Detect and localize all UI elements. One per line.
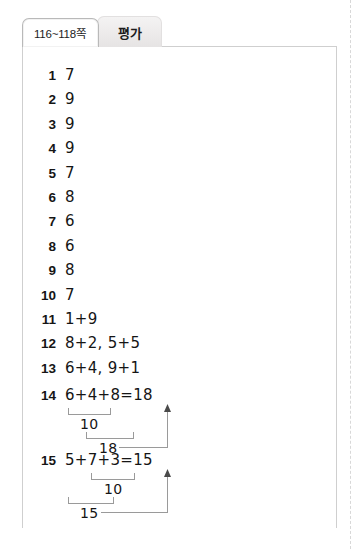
answer-value: 9	[65, 90, 75, 108]
answer-value: 8+2, 5+5	[65, 334, 140, 352]
inner-sum-label: 10	[104, 482, 122, 496]
question-number: 10	[23, 288, 56, 303]
answer-row: 10 7	[23, 286, 336, 310]
regrouping-diagram: 10 18	[65, 404, 255, 456]
question-number: 14	[23, 388, 56, 403]
up-arrow-icon	[163, 404, 172, 413]
result-connector-line	[119, 447, 168, 448]
answer-value: 7	[65, 164, 75, 182]
answer-list: 1 7 2 9 3 9 4 9 5 7 6 8 7 6 8 6	[23, 66, 336, 521]
worked-expression: 6+4+8=18	[65, 387, 255, 404]
inner-bracket	[91, 473, 135, 480]
page-right-dashed-rule	[350, 0, 351, 549]
worked-expression: 5+7+3=15	[65, 452, 255, 469]
answer-row: 6 8	[23, 188, 336, 212]
answer-value: 6	[65, 212, 75, 230]
answer-row: 7 6	[23, 212, 336, 236]
question-number: 11	[23, 312, 56, 327]
answer-key-panel: 1 7 2 9 3 9 4 9 5 7 6 8 7 6 8 6	[22, 46, 337, 528]
result-connector-line	[101, 512, 168, 513]
worked-answer-body: 5+7+3=15 10 15	[65, 452, 255, 521]
question-number: 15	[23, 453, 56, 468]
question-number: 8	[23, 239, 56, 254]
question-number: 4	[23, 141, 56, 156]
answer-row: 4 9	[23, 139, 336, 163]
answer-row: 3 9	[23, 115, 336, 139]
tab-evaluation-label: 평가	[118, 23, 142, 42]
up-arrow-icon	[163, 469, 172, 478]
tab-pages-116-118-label: 116~118쪽	[34, 25, 87, 41]
tab-pages-116-118[interactable]: 116~118쪽	[22, 18, 99, 47]
worked-answer-body: 6+4+8=18 10 18	[65, 387, 255, 456]
question-number: 5	[23, 166, 56, 181]
answer-value: 7	[65, 286, 75, 304]
question-number: 3	[23, 117, 56, 132]
question-number: 9	[23, 263, 56, 278]
answer-value: 8	[65, 188, 75, 206]
answer-row: 13 6+4, 9+1	[23, 359, 336, 383]
answer-row: 11 1+9	[23, 310, 336, 334]
result-arrow-stem	[167, 411, 168, 447]
answer-value: 9	[65, 115, 75, 133]
worked-answer-row: 15 5+7+3=15 10 15	[23, 452, 336, 521]
result-arrow-stem	[167, 476, 168, 512]
answer-row: 12 8+2, 5+5	[23, 334, 336, 358]
answer-row: 8 6	[23, 237, 336, 261]
answer-row: 2 9	[23, 90, 336, 114]
question-number: 2	[23, 92, 56, 107]
outer-bracket	[86, 432, 134, 439]
question-number: 6	[23, 190, 56, 205]
question-number: 1	[23, 68, 56, 83]
tab-strip: 116~118쪽 평가	[22, 14, 162, 47]
outer-bracket	[68, 497, 114, 504]
tab-evaluation[interactable]: 평가	[97, 16, 163, 47]
answer-row: 5 7	[23, 164, 336, 188]
outer-sum-label: 15	[80, 506, 98, 520]
inner-bracket	[68, 408, 111, 415]
answer-value: 9	[65, 139, 75, 157]
regrouping-diagram: 10 15	[65, 469, 255, 521]
question-number: 7	[23, 214, 56, 229]
worked-answer-row: 14 6+4+8=18 10 18	[23, 387, 336, 456]
answer-value: 1+9	[65, 310, 98, 328]
answer-value: 6	[65, 237, 75, 255]
inner-sum-label: 10	[80, 417, 98, 431]
answer-row: 1 7	[23, 66, 336, 90]
answer-row: 9 8	[23, 261, 336, 285]
answer-value: 8	[65, 261, 75, 279]
answer-value: 6+4, 9+1	[65, 359, 140, 377]
answer-value: 7	[65, 66, 75, 84]
question-number: 13	[23, 361, 56, 376]
question-number: 12	[23, 336, 56, 351]
